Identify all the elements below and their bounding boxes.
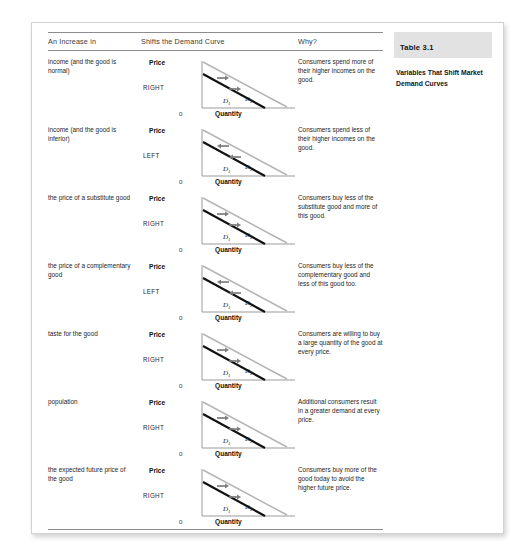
explanation-text: Consumers spend less of their higher inc… (298, 125, 383, 153)
y-axis-label: Price (149, 127, 165, 134)
x-axis-label: Quantity (215, 110, 242, 117)
origin-label: 0 (179, 246, 182, 253)
demand-shift-table: An Increase in Shifts the Demand Curve W… (48, 32, 383, 530)
curve-label-d1: D1 (223, 369, 231, 378)
curve-label-d2: D2 (245, 435, 253, 444)
shift-arrow-right (217, 483, 229, 488)
shift-arrow-left (217, 279, 229, 284)
demand-curve-graph: RIGHTPriceQuantity0D1D2 (141, 465, 298, 527)
curve-label-d2: D2 (245, 503, 253, 512)
origin-label: 0 (179, 178, 182, 185)
explanation-text: Consumers buy less of the substitute goo… (298, 193, 383, 221)
shift-direction-label: RIGHT (143, 84, 164, 91)
table-row: income (and the good is normal)RIGHTPric… (48, 51, 383, 119)
factor-label: the price of a substitute good (48, 193, 141, 202)
table-row: the price of a substitute goodRIGHTPrice… (48, 187, 383, 255)
origin-label: 0 (179, 382, 182, 389)
explanation-text: Consumers spend more of their higher inc… (298, 57, 383, 85)
table-number-label: Table 3.1 (400, 43, 434, 52)
shift-direction-label: RIGHT (143, 356, 164, 363)
y-axis-label: Price (149, 331, 165, 338)
table-row: taste for the goodRIGHTPriceQuantity0D1D… (48, 323, 383, 391)
textbook-page: An Increase in Shifts the Demand Curve W… (31, 22, 504, 534)
table-bottom-rule (48, 529, 383, 530)
table-row: populationRIGHTPriceQuantity0D1D2Additio… (48, 391, 383, 459)
table-body: income (and the good is normal)RIGHTPric… (48, 51, 383, 527)
curve-label-d2: D2 (245, 163, 253, 172)
table-row: the price of a complementary goodLEFTPri… (48, 255, 383, 323)
shift-direction-label: LEFT (143, 288, 160, 295)
y-axis-label: Price (149, 195, 165, 202)
curve-label-d1: D1 (223, 437, 231, 446)
factor-label: income (and the good is inferior) (48, 125, 141, 143)
explanation-text: Consumers buy more of the good today to … (298, 465, 383, 493)
demand-curve-graph: LEFTPriceQuantity0D1D2 (141, 125, 298, 187)
column-header-graph: Shifts the Demand Curve (141, 37, 298, 46)
table-caption-panel: Table 3.1 Variables That Shift Market De… (394, 32, 492, 89)
shift-direction-label: LEFT (143, 152, 160, 159)
curve-label-d2: D2 (245, 367, 253, 376)
demand-curve-graph: RIGHTPriceQuantity0D1D2 (141, 397, 298, 459)
origin-label: 0 (179, 110, 182, 117)
y-axis-label: Price (149, 467, 165, 474)
factor-label: the price of a complementary good (48, 261, 141, 279)
curve-label-d2: D2 (245, 95, 253, 104)
factor-label: income (and the good is normal) (48, 57, 141, 75)
curve-label-d1: D1 (223, 233, 231, 242)
shift-arrow-right (217, 415, 229, 420)
curve-label-d1: D1 (223, 165, 231, 174)
table-row: income (and the good is inferior)LEFTPri… (48, 119, 383, 187)
shift-direction-label: RIGHT (143, 220, 164, 227)
demand-curve-graph: RIGHTPriceQuantity0D1D2 (141, 329, 298, 391)
curve-label-d2: D2 (245, 231, 253, 240)
factor-label: taste for the good (48, 329, 141, 338)
demand-curve-graph: RIGHTPriceQuantity0D1D2 (141, 57, 298, 119)
column-header-factor: An Increase in (48, 37, 141, 46)
y-axis-label: Price (149, 263, 165, 270)
shift-arrow-left (217, 143, 229, 148)
origin-label: 0 (179, 314, 182, 321)
origin-label: 0 (179, 518, 182, 525)
curve-label-d2: D2 (245, 299, 253, 308)
x-axis-label: Quantity (215, 450, 242, 457)
y-axis-label: Price (149, 399, 165, 406)
factor-label: population (48, 397, 141, 406)
origin-label: 0 (179, 450, 182, 457)
demand-curve-graph: LEFTPriceQuantity0D1D2 (141, 261, 298, 323)
table-number-band: Table 3.1 (394, 32, 492, 58)
explanation-text: Consumers buy less of the complementary … (298, 261, 383, 289)
table-caption-text: Variables That Shift Market Demand Curve… (394, 67, 492, 89)
shift-arrow-right (217, 347, 229, 352)
explanation-text: Additional consumers result in a greater… (298, 397, 383, 425)
table-header-row: An Increase in Shifts the Demand Curve W… (48, 33, 383, 50)
column-header-why: Why? (298, 37, 383, 46)
x-axis-label: Quantity (215, 518, 242, 525)
x-axis-label: Quantity (215, 178, 242, 185)
y-axis-label: Price (149, 59, 165, 66)
x-axis-label: Quantity (215, 382, 242, 389)
demand-curve-graph: RIGHTPriceQuantity0D1D2 (141, 193, 298, 255)
shift-direction-label: RIGHT (143, 492, 164, 499)
x-axis-label: Quantity (215, 246, 242, 253)
explanation-text: Consumers are willing to buy a large qua… (298, 329, 383, 357)
shift-arrow-right (217, 75, 229, 80)
shift-arrow-right (217, 211, 229, 216)
curve-label-d1: D1 (223, 97, 231, 106)
x-axis-label: Quantity (215, 314, 242, 321)
factor-label: the expected future price of the good (48, 465, 141, 483)
curve-label-d1: D1 (223, 301, 231, 310)
shift-direction-label: RIGHT (143, 424, 164, 431)
curve-label-d1: D1 (223, 505, 231, 514)
table-row: the expected future price of the goodRIG… (48, 459, 383, 527)
